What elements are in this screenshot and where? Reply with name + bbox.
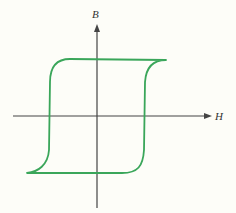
b-axis-arrow-icon: [94, 24, 100, 32]
h-axis-label: H: [214, 110, 224, 122]
h-axis-arrow-icon: [204, 113, 212, 119]
hysteresis-diagram: B H: [0, 0, 236, 213]
diagram-svg: B H: [0, 0, 236, 213]
b-axis-label: B: [92, 8, 99, 20]
